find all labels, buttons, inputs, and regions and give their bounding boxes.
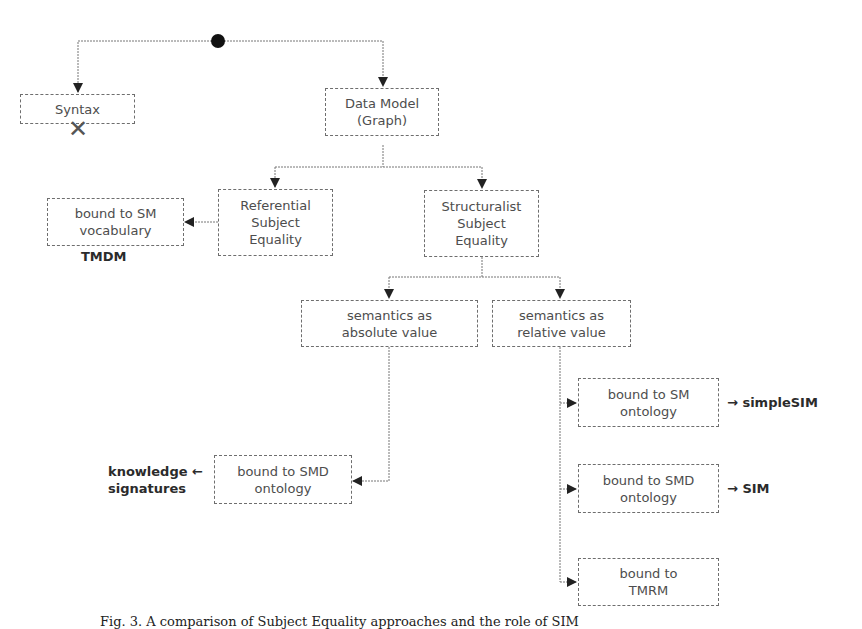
annotation-tmdm: TMDM — [81, 248, 127, 265]
node-data-model: Data Model (Graph) — [325, 88, 439, 136]
annotation-simplesim: → simpleSIM — [727, 394, 818, 411]
node-relative-line2: relative value — [517, 324, 606, 341]
node-structuralist-line1: Structuralist — [442, 198, 522, 215]
node-semantics-relative: semantics as relative value — [492, 300, 631, 347]
annotation-knowledge-signatures: knowledge ← signatures — [108, 463, 203, 497]
annotation-sim: → SIM — [727, 480, 770, 497]
node-bound-to-sm-ontology: bound to SM ontology — [578, 378, 719, 427]
node-sm-ontology-line2: ontology — [608, 403, 690, 420]
annotation-knowledge-line2: signatures — [108, 480, 203, 497]
node-bound-to-smd-ontology-left: bound to SMD ontology — [214, 455, 352, 504]
node-absolute-line2: absolute value — [342, 324, 438, 341]
node-sm-vocabulary-line1: bound to SM — [75, 205, 157, 222]
node-referential-line2: Subject — [240, 214, 311, 231]
node-sm-ontology-line1: bound to SM — [608, 386, 690, 403]
node-structuralist-line3: Equality — [442, 232, 522, 249]
node-referential-subject-equality: Referential Subject Equality — [218, 189, 333, 256]
node-structuralist-line2: Subject — [442, 215, 522, 232]
start-node — [211, 34, 225, 48]
node-semantics-absolute: semantics as absolute value — [301, 300, 478, 347]
annotation-knowledge-line1: knowledge ← — [108, 463, 203, 480]
node-referential-line3: Equality — [240, 231, 311, 248]
node-structuralist-subject-equality: Structuralist Subject Equality — [424, 190, 539, 257]
node-bound-to-sm-vocabulary: bound to SM vocabulary — [47, 198, 184, 246]
node-tmrm-line2: TMRM — [619, 582, 677, 599]
figure-caption: Fig. 3. A comparison of Subject Equality… — [100, 614, 579, 629]
node-bound-to-tmrm: bound to TMRM — [578, 558, 719, 606]
node-bound-to-smd-ontology-right: bound to SMD ontology — [578, 464, 719, 513]
node-smd-right-line1: bound to SMD — [603, 472, 695, 489]
node-smd-right-line2: ontology — [603, 489, 695, 506]
node-sm-vocabulary-line2: vocabulary — [75, 222, 157, 239]
node-absolute-line1: semantics as — [342, 307, 438, 324]
node-tmrm-line1: bound to — [619, 565, 677, 582]
node-referential-line1: Referential — [240, 197, 311, 214]
node-smd-left-line2: ontology — [237, 480, 329, 497]
node-data-model-line1: Data Model — [345, 95, 419, 112]
node-smd-left-line1: bound to SMD — [237, 463, 329, 480]
node-relative-line1: semantics as — [517, 307, 606, 324]
node-data-model-line2: (Graph) — [345, 112, 419, 129]
rejected-x-icon: ✕ — [68, 119, 88, 139]
